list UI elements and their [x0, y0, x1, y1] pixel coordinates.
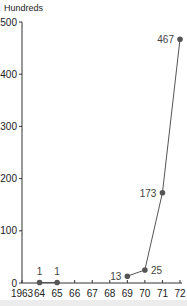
y-tick-label: 500 [0, 17, 17, 28]
x-tick-label: 67 [87, 288, 99, 299]
x-tick-label: 66 [69, 288, 81, 299]
x-tick-label: 68 [104, 288, 116, 299]
data-point-label: 13 [110, 271, 122, 282]
y-tick-label: 400 [0, 69, 17, 80]
series-line [127, 39, 180, 276]
x-tick-label: 71 [157, 288, 169, 299]
data-point-label: 467 [157, 34, 174, 45]
x-tick-label: 65 [52, 288, 64, 299]
y-axis: 0100200300400500 [0, 17, 22, 289]
line-chart: Hundreds 0100200300400500 19636465666768… [0, 0, 187, 306]
y-axis-label: Hundreds [4, 3, 44, 13]
x-tick-label: 70 [139, 288, 151, 299]
data-point-label: 1 [37, 266, 43, 277]
y-tick-label: 100 [0, 225, 17, 236]
data-point-label: 25 [151, 265, 163, 276]
data-point-label: 1 [54, 266, 60, 277]
data-series [37, 36, 183, 285]
y-tick-label: 0 [11, 278, 17, 289]
data-point-label: 173 [140, 188, 157, 199]
x-tick-label: 69 [122, 288, 134, 299]
data-point-marker [54, 280, 60, 286]
x-tick-label: 72 [174, 288, 186, 299]
data-point-marker [160, 190, 166, 196]
data-point-marker [142, 267, 148, 273]
data-point-marker [37, 280, 43, 286]
y-tick-label: 200 [0, 173, 17, 184]
x-tick-label: 1963 [11, 288, 34, 299]
y-tick-label: 300 [0, 121, 17, 132]
footer-band [0, 300, 187, 306]
data-point-marker [177, 36, 183, 42]
data-point-marker [125, 273, 131, 279]
x-tick-label: 64 [34, 288, 46, 299]
data-point-labels: 111325173467 [37, 34, 175, 282]
